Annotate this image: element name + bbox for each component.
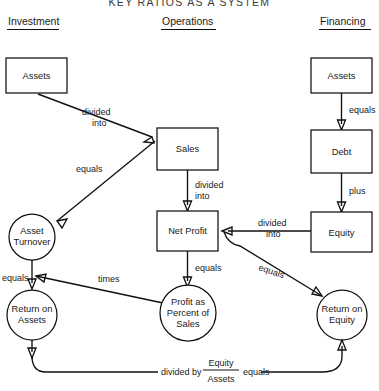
column-header-financing-label: Financing [320,15,366,27]
node-debt-label: Debt [332,147,352,157]
node-profit-pct-line1: Profit as [171,297,205,307]
edge-label-equals-roe: equals [257,262,286,280]
node-assets-right: Assets [311,58,372,93]
edge-label-line2: into [266,229,281,239]
node-asset-turnover: Asset Turnover [9,214,55,260]
node-profit-percent-of-sales: Profit as Percent of Sales [160,285,216,341]
edge-label-equals-profitpct: equals [195,263,222,273]
bottom-equation-numerator: Equity [208,358,234,368]
arrowhead [57,219,67,228]
edge-label-line1: divided [258,218,287,228]
bottom-equation: divided by Equity Assets equals [161,358,270,384]
node-return-on-equity-line1: Return on [322,304,363,314]
edge-label-equals-roa: equals [2,273,29,283]
column-header-operations: Operations [161,15,216,30]
node-net-profit: Net Profit [157,211,218,251]
bottom-equation-divided-by: divided by [161,367,202,377]
node-return-on-equity: Return on Equity [317,290,367,340]
node-asset-turnover-line2: Turnover [14,237,51,247]
key-ratios-diagram: KEY RATIOS AS A SYSTEM Investment Operat… [0,0,379,391]
node-assets-left-label: Assets [23,71,51,81]
edge-label-divided-into-equity: divided into [258,218,287,239]
node-return-on-equity-line2: Equity [329,315,355,325]
column-header-operations-label: Operations [162,15,213,27]
edge-label-line2: into [92,118,107,128]
edge-bottom-right-run [261,346,342,372]
column-header-investment: Investment [7,15,59,30]
column-header-financing: Financing [319,15,371,30]
node-sales-label: Sales [176,144,200,154]
edge-label-line1: divided [82,107,111,117]
column-header-investment-label: Investment [8,15,59,27]
node-debt: Debt [311,130,372,173]
node-asset-turnover-line1: Asset [20,226,44,236]
node-profit-pct-line2: Percent of [167,308,210,318]
node-sales: Sales [157,128,218,170]
node-equity: Equity [311,212,372,252]
edge-sales-to-asset-turnover [57,141,155,221]
bottom-equation-equals: equals [243,367,270,377]
edge-bottom-left-run [32,356,158,372]
diagram-title: KEY RATIOS AS A SYSTEM [109,0,271,8]
node-equity-label: Equity [329,228,355,238]
edge-label-equals-turnover: equals [76,164,103,174]
arrowhead [36,274,46,282]
arrowhead [144,137,154,143]
node-net-profit-label: Net Profit [168,226,207,236]
edge-label-divided-into-assets: divided into [82,107,111,128]
edge-label-times: times [98,274,120,284]
node-assets-right-label: Assets [328,71,356,81]
edge-label-line1: divided [195,180,224,190]
edge-label-line2: into [195,191,210,201]
node-return-on-assets-line2: Assets [18,315,46,325]
node-return-on-assets-line1: Return on [12,304,53,314]
edge-label-plus: plus [349,186,366,196]
node-assets-left: Assets [6,58,67,93]
edge-netprofit-to-roe [224,232,322,296]
bottom-equation-denominator: Assets [207,374,235,384]
node-profit-pct-line3: Sales [176,319,200,329]
edge-label-equals-debt: equals [349,105,376,115]
arrowhead [312,287,322,296]
node-return-on-assets: Return on Assets [7,290,57,340]
edge-label-divided-into-netprofit: divided into [195,180,224,201]
